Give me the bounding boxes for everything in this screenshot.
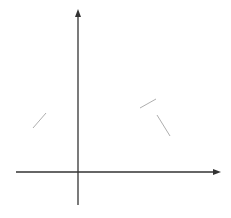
leader-line bbox=[157, 115, 170, 136]
leader-line bbox=[140, 99, 156, 108]
leader-line bbox=[33, 113, 46, 128]
graph-canvas bbox=[0, 0, 231, 218]
y-axis-arrow-icon bbox=[75, 9, 81, 17]
x-axis-arrow-icon bbox=[213, 169, 221, 175]
